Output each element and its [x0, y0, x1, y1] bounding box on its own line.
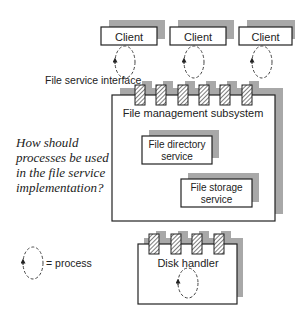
directory-service-line2: service [161, 151, 193, 162]
client-box-2: Client [170, 20, 234, 45]
file-service-interface-label: File service interface [45, 74, 141, 86]
client-label-1: Client [115, 31, 143, 43]
disk-handler-label: Disk handler [157, 257, 218, 269]
client-box-1: Client [101, 20, 165, 45]
legend: = process [23, 247, 92, 279]
question-text: How should processes be used in the file… [15, 135, 109, 195]
directory-service-line1: File directory [148, 139, 205, 150]
client-process-icon-3 [252, 46, 272, 78]
client-label-3: Client [251, 31, 279, 43]
subsystem-title: File management subsystem [123, 107, 264, 119]
file-directory-service-box: File directory service [142, 130, 219, 164]
question-line-2: processes be used [15, 150, 109, 165]
storage-service-line1: File storage [190, 182, 243, 193]
question-line-3: in the file service [16, 165, 105, 180]
disk-handler-box: Disk handler [138, 231, 243, 304]
question-line-1: How should [15, 135, 79, 150]
storage-service-line2: service [201, 194, 233, 205]
question-line-4: implementation? [16, 180, 104, 195]
process-loop-icon [23, 247, 43, 279]
client-process-icon-2 [184, 46, 204, 78]
legend-label: = process [46, 257, 92, 269]
client-box-3: Client [239, 20, 295, 45]
file-service-diagram: Client Client Client File service interf… [0, 0, 306, 323]
client-label-2: Client [184, 31, 212, 43]
file-storage-service-box: File storage service [181, 173, 259, 207]
